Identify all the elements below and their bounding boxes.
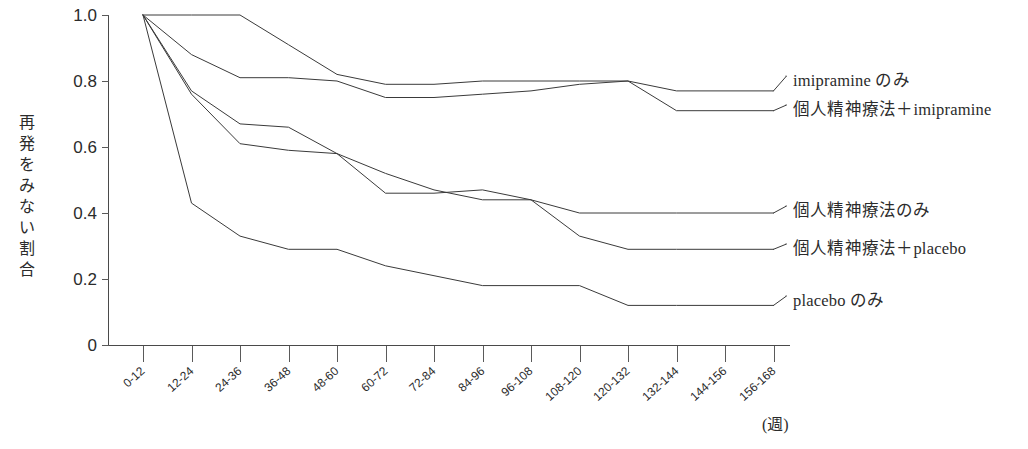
leader-line-group	[774, 76, 787, 305]
legend-item-psychotherapy-only[interactable]: 個人精神療法のみ	[793, 197, 931, 221]
series-line-imipramine	[143, 15, 774, 91]
legend-item-placebo-only[interactable]: placebo のみ	[793, 287, 884, 311]
legend-leader-line	[774, 296, 787, 305]
legend-leader-line	[774, 76, 787, 91]
y-tick-label-group: 1.00.80.60.40.20	[73, 6, 97, 355]
x-tick-label: 36-48	[261, 364, 293, 395]
legend-leader-line	[774, 105, 787, 111]
x-tick-label: 156-168	[736, 364, 778, 404]
legend-leader-line	[774, 206, 787, 213]
x-tick-label: 132-144	[639, 364, 681, 404]
y-tick-label: 0.4	[73, 204, 97, 223]
x-tick-label: 144-156	[687, 364, 729, 404]
y-tick-group	[102, 16, 109, 346]
x-tick-label: 12-24	[164, 364, 196, 395]
x-tick-label-group: 0-1212-2424-3636-4848-6060-7272-8484-969…	[120, 364, 778, 404]
y-tick-label: 1.0	[73, 6, 97, 25]
chart-axes	[109, 15, 791, 346]
x-tick-group	[144, 346, 775, 363]
y-tick-label: 0.6	[73, 138, 97, 157]
x-tick-label: 24-36	[212, 364, 244, 395]
x-tick-label: 108-120	[542, 364, 584, 404]
y-tick-label: 0.2	[73, 270, 97, 289]
y-tick-label: 0.8	[73, 72, 97, 91]
x-tick-label: 72-84	[406, 364, 438, 395]
x-tick-label: 48-60	[309, 364, 341, 395]
legend-leader-line	[774, 244, 787, 249]
series-group	[143, 15, 774, 305]
series-line-placebo	[143, 15, 774, 249]
y-tick-label: 0	[88, 336, 97, 355]
x-tick-label: 0-12	[120, 364, 147, 391]
chart-page: 再 発 を み な い 割 合 1.00.80.60.40.20 0-1212-…	[0, 0, 1028, 449]
series-line-placebo	[143, 15, 774, 305]
x-tick-label: 60-72	[358, 364, 390, 395]
x-tick-label: 120-132	[590, 364, 632, 404]
legend-item-psychotherapy-plus-placebo[interactable]: 個人精神療法＋placebo	[793, 235, 966, 259]
x-tick-label: 96-108	[498, 364, 535, 400]
legend-item-imipramine-only[interactable]: imipramine のみ	[793, 67, 910, 91]
x-axis-unit-label: (週)	[762, 411, 789, 435]
series-line-series	[143, 15, 774, 213]
x-tick-label: 84-96	[455, 364, 487, 395]
series-line-imipramine	[143, 15, 774, 111]
legend-item-psychotherapy-plus-imipramine[interactable]: 個人精神療法＋imipramine	[793, 96, 991, 120]
